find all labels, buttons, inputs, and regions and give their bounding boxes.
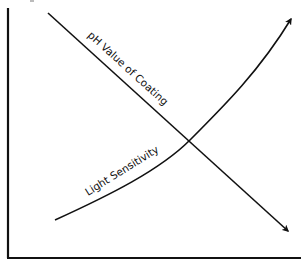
ph-value-label: pH Value of Coating [86, 29, 171, 108]
scan-artifact [30, 0, 34, 2]
diagram-canvas: pH Value of Coating Light Sensitivity [0, 0, 304, 265]
light-sensitivity-label: Light Sensitivity [83, 143, 161, 198]
series-ph-value: pH Value of Coating [48, 13, 288, 231]
ph-value-line [48, 13, 288, 231]
series-light-sensitivity: Light Sensitivity [55, 19, 291, 220]
axes [7, 8, 301, 258]
